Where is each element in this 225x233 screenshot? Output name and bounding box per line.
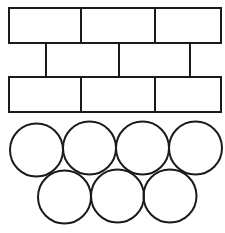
circle (116, 122, 169, 175)
circle (10, 124, 63, 177)
circle (169, 122, 222, 175)
brick-row-top (9, 8, 221, 43)
circle (144, 170, 197, 223)
brick-wall (9, 8, 221, 112)
brick-row-bottom (9, 77, 221, 112)
circle (63, 122, 116, 175)
circle (38, 171, 91, 224)
circle-packing (10, 122, 222, 224)
packing-diagram (0, 0, 225, 233)
circle (91, 170, 144, 223)
